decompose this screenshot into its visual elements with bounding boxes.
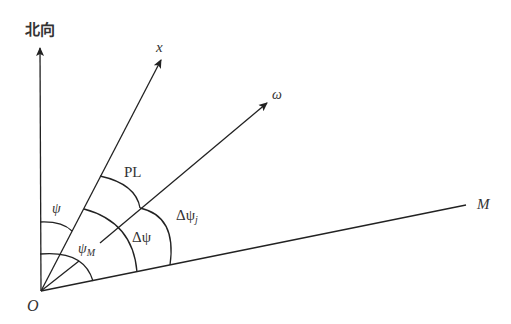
- origin-label: O: [27, 298, 39, 314]
- pl-arc: [100, 176, 140, 208]
- delta-psi-j-symbol: Δψ: [176, 207, 195, 223]
- psi-label: ψ: [52, 202, 61, 216]
- x-axis-label: x: [156, 40, 163, 55]
- north-label: 北向: [25, 23, 55, 38]
- psi-arc: [40, 222, 72, 231]
- m-axis-label: M: [477, 197, 490, 212]
- heading-angle-diagram: 北向 x ω M O ψ ψM Δψ PL Δψj: [0, 0, 511, 324]
- psi-m-subscript: M: [87, 247, 95, 258]
- pl-label: PL: [124, 165, 142, 180]
- delta-psi-label: Δψ: [132, 230, 151, 245]
- delta-psi-j-subscript: j: [195, 214, 198, 225]
- omega-axis-label: ω: [272, 88, 282, 102]
- diagram-lines: [0, 0, 511, 324]
- delta-psi-j-label: Δψj: [176, 208, 198, 225]
- x-axis: [41, 60, 161, 291]
- psi-m-label: ψM: [78, 242, 95, 258]
- psi-m-symbol: ψ: [78, 241, 87, 256]
